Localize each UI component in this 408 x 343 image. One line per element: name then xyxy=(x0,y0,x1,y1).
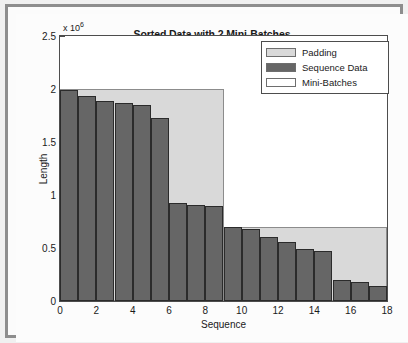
bar xyxy=(260,237,278,301)
bar xyxy=(314,251,332,301)
y-axis-label: Length xyxy=(38,153,49,184)
chart-legend: PaddingSequence DataMini-Batches xyxy=(261,41,389,94)
y-tick-label: 0 xyxy=(28,296,56,307)
legend-label: Sequence Data xyxy=(302,62,368,73)
y-tick-label: 1 xyxy=(28,190,56,201)
y-tick-label: 2.5 xyxy=(28,31,56,42)
bar xyxy=(169,203,187,301)
x-tick-label: 10 xyxy=(236,305,247,316)
chart-figure: Sorted Data with 2 Mini-Batches x 106 Le… xyxy=(16,14,408,342)
legend-swatch xyxy=(266,78,296,87)
x-tick-label: 6 xyxy=(166,305,172,316)
bar xyxy=(151,118,169,301)
bar xyxy=(133,105,151,301)
y-axis-multiplier-exponent: 6 xyxy=(80,21,84,28)
legend-label: Padding xyxy=(302,47,337,58)
bar xyxy=(96,101,114,301)
bar xyxy=(351,282,369,301)
bar xyxy=(78,96,96,301)
y-tick-label: 0.5 xyxy=(28,243,56,254)
bar xyxy=(205,206,223,301)
window-border: Sorted Data with 2 Mini-Batches x 106 Le… xyxy=(5,4,403,338)
x-tick-label: 14 xyxy=(309,305,320,316)
x-axis-label: Sequence xyxy=(60,319,387,330)
y-axis-multiplier-base: x 10 xyxy=(63,23,80,33)
y-tick-label: 1.5 xyxy=(28,137,56,148)
legend-swatch xyxy=(266,63,296,72)
x-tick-label: 8 xyxy=(203,305,209,316)
y-tick-label: 2 xyxy=(28,84,56,95)
x-tick-label: 16 xyxy=(345,305,356,316)
figure-window: Sorted Data with 2 Mini-Batches x 106 Le… xyxy=(0,0,408,343)
bar xyxy=(296,249,314,301)
legend-swatch xyxy=(266,48,296,57)
bar xyxy=(278,242,296,301)
bar xyxy=(369,286,387,301)
legend-label: Mini-Batches xyxy=(302,77,357,88)
x-tick-label: 12 xyxy=(272,305,283,316)
bar xyxy=(242,229,260,301)
x-tick-label: 4 xyxy=(130,305,136,316)
bar xyxy=(333,280,351,301)
y-tick-mark xyxy=(60,301,65,302)
legend-item[interactable]: Sequence Data xyxy=(266,60,384,75)
x-tick-label: 2 xyxy=(94,305,100,316)
bar xyxy=(60,90,78,301)
bar xyxy=(187,205,205,301)
bar xyxy=(224,227,242,301)
y-axis-multiplier: x 106 xyxy=(63,21,84,33)
bar xyxy=(115,103,133,301)
x-tick-label: 18 xyxy=(381,305,392,316)
legend-item[interactable]: Padding xyxy=(266,45,384,60)
x-tick-label: 0 xyxy=(57,305,63,316)
legend-item[interactable]: Mini-Batches xyxy=(266,75,384,90)
x-tick-mark xyxy=(387,296,388,301)
